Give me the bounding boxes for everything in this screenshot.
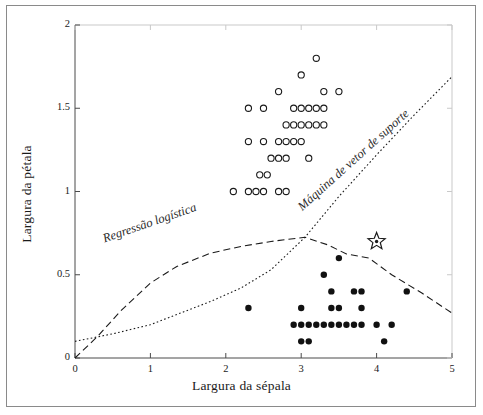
data-point-open — [321, 89, 327, 95]
data-point-open — [268, 155, 274, 161]
x-tick-label: 2 — [214, 363, 238, 374]
y-axis-title: Largura da pétala — [19, 74, 35, 314]
data-point-filled — [343, 322, 349, 328]
data-point-filled — [404, 288, 410, 294]
y-tick-label: 2 — [44, 18, 70, 29]
data-point-open — [321, 105, 327, 111]
data-point-filled — [358, 322, 364, 328]
data-point-open — [275, 155, 281, 161]
data-point-open — [275, 89, 281, 95]
series-star — [368, 232, 385, 248]
data-point-open — [291, 105, 297, 111]
data-point-filled — [298, 305, 304, 311]
data-point-open — [298, 105, 304, 111]
y-tick-label: 0.5 — [44, 268, 70, 279]
data-point-filled — [388, 322, 394, 328]
data-point-filled — [373, 322, 379, 328]
data-point-open — [291, 122, 297, 128]
data-point-open — [260, 188, 266, 194]
data-point-filled — [298, 338, 304, 344]
data-point-open — [313, 122, 319, 128]
y-tick-label: 1 — [44, 185, 70, 196]
data-point-open — [298, 138, 304, 144]
data-point-filled — [328, 288, 334, 294]
highlighted-instance-center-dot — [375, 240, 378, 243]
data-point-open — [275, 138, 281, 144]
x-axis-title: Largura da sépala — [0, 378, 483, 394]
data-point-open — [245, 188, 251, 194]
data-point-filled — [358, 288, 364, 294]
data-point-open — [306, 122, 312, 128]
data-point-open — [336, 89, 342, 95]
data-point-open — [298, 122, 304, 128]
data-point-filled — [321, 322, 327, 328]
data-point-open — [306, 155, 312, 161]
data-point-open — [283, 155, 289, 161]
x-tick-label: 1 — [138, 363, 162, 374]
data-point-filled — [245, 305, 251, 311]
data-point-open — [313, 55, 319, 61]
data-point-open — [245, 138, 251, 144]
data-point-open — [283, 122, 289, 128]
data-point-filled — [336, 322, 342, 328]
data-point-filled — [290, 322, 296, 328]
data-point-open — [257, 172, 263, 178]
data-point-open — [306, 105, 312, 111]
x-tick-label: 4 — [365, 363, 389, 374]
data-point-open — [291, 138, 297, 144]
data-point-filled — [351, 322, 357, 328]
figure-container: Largura da sépala Largura da pétala Regr… — [0, 0, 483, 415]
data-point-open — [298, 72, 304, 78]
data-point-open — [260, 105, 266, 111]
data-point-open — [230, 188, 236, 194]
data-point-open — [321, 122, 327, 128]
data-point-filled — [328, 322, 334, 328]
data-point-filled — [298, 322, 304, 328]
y-tick-label: 1.5 — [44, 101, 70, 112]
scatter-plot — [0, 0, 483, 415]
data-point-filled — [351, 288, 357, 294]
data-point-filled — [381, 338, 387, 344]
data-point-open — [245, 105, 251, 111]
data-point-filled — [336, 305, 342, 311]
data-point-filled — [306, 322, 312, 328]
data-point-open — [313, 105, 319, 111]
x-tick-label: 0 — [63, 363, 87, 374]
data-point-open — [275, 188, 281, 194]
data-point-filled — [313, 322, 319, 328]
decision-boundary-logistic — [75, 237, 452, 358]
y-tick-label: 0 — [44, 351, 70, 362]
data-point-open — [260, 138, 266, 144]
data-point-open — [283, 188, 289, 194]
data-point-filled — [358, 305, 364, 311]
series-open-circle — [230, 55, 342, 194]
data-point-filled — [328, 305, 334, 311]
data-point-open — [264, 172, 270, 178]
series-filled-circle — [245, 255, 410, 345]
data-point-filled — [321, 272, 327, 278]
data-point-open — [283, 138, 289, 144]
x-tick-label: 5 — [440, 363, 464, 374]
data-point-filled — [336, 255, 342, 261]
x-tick-label: 3 — [289, 363, 313, 374]
data-point-filled — [306, 338, 312, 344]
data-point-open — [253, 188, 259, 194]
